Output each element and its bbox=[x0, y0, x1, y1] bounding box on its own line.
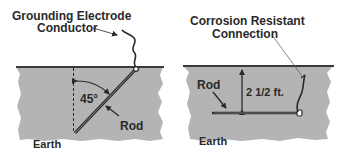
rod-clamp-left bbox=[134, 67, 139, 72]
connection-title: Connection bbox=[212, 27, 278, 41]
grounding-electrode-diagram: Grounding Electrode Conductor 45° Rod Ea… bbox=[0, 0, 345, 160]
right-panel: Corrosion Resistant Connection 2 1/2 ft.… bbox=[183, 14, 334, 147]
angle-label: 45° bbox=[80, 92, 98, 106]
left-panel: Grounding Electrode Conductor 45° Rod Ea… bbox=[12, 9, 164, 150]
grounding-conductor-wire bbox=[122, 30, 136, 67]
conductor-title: Conductor bbox=[37, 21, 98, 35]
rod-label-right: Rod bbox=[197, 78, 220, 92]
rod-label-left: Rod bbox=[120, 119, 143, 133]
earth-label-left: Earth bbox=[33, 138, 61, 150]
earth-label-right: Earth bbox=[199, 135, 227, 147]
corrosion-resistant-title: Corrosion Resistant bbox=[190, 14, 305, 28]
depth-label: 2 1/2 ft. bbox=[246, 86, 284, 98]
